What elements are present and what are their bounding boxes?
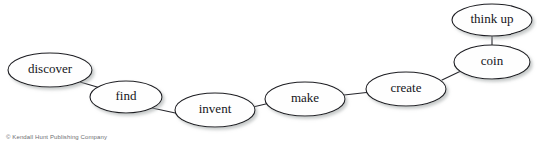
node-label-think_up: think up — [471, 11, 514, 26]
node-create[interactable]: create — [366, 72, 446, 106]
node-label-coin: coin — [481, 53, 504, 68]
node-find[interactable]: find — [90, 81, 162, 113]
node-label-find: find — [116, 88, 137, 103]
node-discover[interactable]: discover — [8, 53, 92, 87]
node-label-create: create — [390, 80, 421, 95]
node-think_up[interactable]: think up — [452, 4, 532, 36]
node-label-invent: invent — [199, 101, 232, 116]
node-make[interactable]: make — [265, 82, 345, 116]
node-layer: discoverfindinventmakecreatecointhink up — [8, 4, 532, 127]
word-chain-diagram: discoverfindinventmakecreatecointhink up — [0, 0, 537, 151]
copyright-notice: © Kendall Hunt Publishing Company — [6, 134, 107, 140]
node-invent[interactable]: invent — [175, 93, 255, 127]
node-label-discover: discover — [28, 61, 73, 76]
node-coin[interactable]: coin — [454, 45, 530, 79]
node-label-make: make — [291, 90, 319, 105]
